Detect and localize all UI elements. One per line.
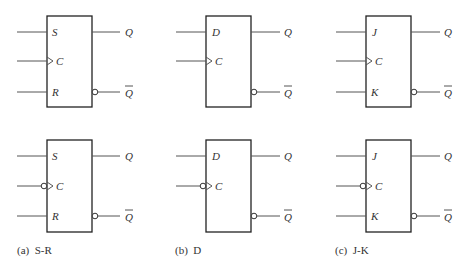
qbar-label: Q [125, 211, 133, 223]
qbar-label: Q [444, 87, 452, 99]
inversion-bubble-icon [251, 213, 257, 219]
c-label: C [375, 180, 383, 192]
qbar-label: Q [444, 211, 452, 223]
c-label: C [56, 180, 64, 192]
jk-flipflop-rising: J C K Q Q [336, 16, 452, 107]
caption-d: (b) D [175, 244, 201, 257]
c-label: C [56, 55, 64, 67]
d-label: D [211, 150, 220, 162]
inversion-bubble-icon [92, 213, 98, 219]
flip-flop-diagram: S C R Q Q S C R Q Q D C [0, 0, 465, 272]
d-flipflop-rising: D C Q Q [176, 16, 292, 107]
q-label: Q [444, 150, 452, 162]
c-label: C [215, 180, 223, 192]
inversion-bubble-icon [411, 213, 417, 219]
qbar-label: Q [125, 87, 133, 99]
r-label: R [51, 86, 59, 98]
c-label: C [215, 55, 223, 67]
c-label: C [375, 55, 383, 67]
q-label: Q [125, 150, 133, 162]
inversion-bubble-icon [360, 183, 366, 189]
k-label: K [370, 210, 379, 222]
qbar-label: Q [284, 87, 292, 99]
inversion-bubble-icon [411, 89, 417, 95]
k-label: K [370, 86, 379, 98]
s-label: S [52, 26, 58, 38]
q-label: Q [284, 26, 292, 38]
inversion-bubble-icon [200, 183, 206, 189]
d-flipflop-falling: D C Q Q [176, 140, 292, 232]
sr-flipflop-falling: S C R Q Q [17, 140, 133, 232]
q-label: Q [284, 150, 292, 162]
qbar-label: Q [284, 211, 292, 223]
jk-flipflop-falling: J C K Q Q [336, 140, 452, 232]
q-label: Q [444, 26, 452, 38]
inversion-bubble-icon [251, 89, 257, 95]
caption-sr: (a) S-R [17, 244, 52, 257]
inversion-bubble-icon [41, 183, 47, 189]
s-label: S [52, 150, 58, 162]
r-label: R [51, 210, 59, 222]
caption-jk: (c) J-K [335, 244, 369, 257]
q-label: Q [125, 26, 133, 38]
inversion-bubble-icon [92, 89, 98, 95]
d-label: D [211, 26, 220, 38]
sr-flipflop-rising: S C R Q Q [17, 16, 133, 107]
